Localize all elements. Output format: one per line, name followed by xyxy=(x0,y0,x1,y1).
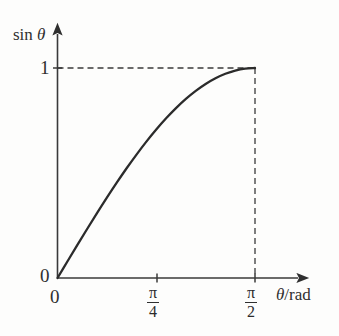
x-tick-label-pi-over-2-numerator: π xyxy=(245,285,257,303)
y-axis-label-text: sin xyxy=(13,25,33,44)
x-axis-label: θ/rad xyxy=(276,286,311,303)
x-tick-label-pi-over-2-denominator: 2 xyxy=(245,303,257,320)
x-axis-label-unit: /rad xyxy=(284,285,310,304)
y-axis-label-symbol: θ xyxy=(37,25,45,44)
origin-label-x: 0 xyxy=(50,287,60,306)
sine-curve-figure: sin θ θ/rad 1 0 0 π 4 π 2 xyxy=(0,0,339,336)
x-tick-label-pi-over-4-denominator: 4 xyxy=(147,303,159,320)
x-tick-label-pi-over-2: π 2 xyxy=(245,285,257,321)
sine-curve-path xyxy=(58,68,256,278)
y-tick-label-one: 1 xyxy=(40,58,50,77)
origin-label-y: 0 xyxy=(40,266,50,285)
y-axis-label: sin θ xyxy=(13,26,45,43)
x-tick-label-pi-over-4: π 4 xyxy=(147,285,159,321)
x-tick-label-pi-over-4-numerator: π xyxy=(147,285,159,303)
